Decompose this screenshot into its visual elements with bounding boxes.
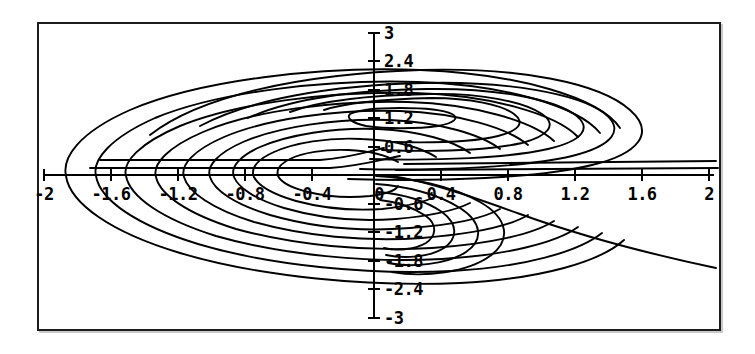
contour-mid-band-1 <box>90 156 400 168</box>
x-tick-label--1.6: -1.6 <box>92 186 131 203</box>
x-tick-label-0: 0 <box>374 186 384 203</box>
contour-svg <box>0 0 755 354</box>
y-tick-label-3: 3 <box>384 25 394 42</box>
y-tick-label-0.6: 0.6 <box>384 139 413 156</box>
y-tick-label-1.8: 1.8 <box>384 82 413 99</box>
contour-level-1 <box>65 69 624 284</box>
y-tick-label-1.2: 1.2 <box>384 110 413 127</box>
x-tick-label-1.2: 1.2 <box>560 186 589 203</box>
x-tick-label-1.6: 1.6 <box>627 186 656 203</box>
y-tick-label-2.4: 2.4 <box>384 53 413 70</box>
x-tick-label--0.8: -0.8 <box>226 186 265 203</box>
axes-lines <box>44 33 714 318</box>
y-tick-label--0.6: -0.6 <box>384 196 423 213</box>
x-tick-label--2: -2 <box>34 186 53 203</box>
x-tick-label-2: 2 <box>704 186 714 203</box>
y-tick-label--2.4: -2.4 <box>384 281 423 298</box>
contour-plot-figure: -2 -1.6 -1.2 -0.8 -0.4 0 0.4 0.8 1.2 1.6… <box>0 0 755 354</box>
y-tick-label--3: -3 <box>384 310 403 327</box>
y-tick-label--1.2: -1.2 <box>384 224 423 241</box>
x-tick-label--1.2: -1.2 <box>159 186 198 203</box>
plot-canvas <box>0 0 755 354</box>
x-tick-label--0.4: -0.4 <box>293 186 332 203</box>
contour-right-horizontal-2 <box>404 161 716 164</box>
x-tick-label-0.4: 0.4 <box>426 186 455 203</box>
y-tick-label--1.8: -1.8 <box>384 253 423 270</box>
x-tick-label-0.8: 0.8 <box>493 186 522 203</box>
